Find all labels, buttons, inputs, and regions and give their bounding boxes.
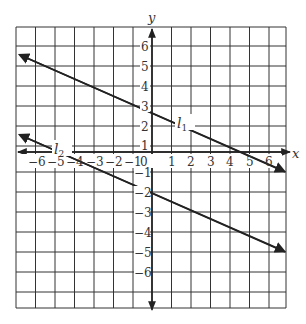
svg-text:−1: −1 xyxy=(134,166,152,180)
coordinate-plane: y x 0 −6 −5 −4 −3 −2 −1 1 2 3 4 5 6 6 5 … xyxy=(0,0,306,324)
x-axis-label: x xyxy=(292,146,300,161)
svg-text:1: 1 xyxy=(168,155,176,169)
svg-text:4: 4 xyxy=(141,80,149,94)
y-axis-label: y xyxy=(147,10,156,25)
svg-text:5: 5 xyxy=(141,60,149,74)
svg-text:6: 6 xyxy=(141,40,149,54)
svg-text:6: 6 xyxy=(265,155,273,169)
svg-text:−5: −5 xyxy=(134,246,152,260)
svg-text:5: 5 xyxy=(246,155,254,169)
svg-text:−6: −6 xyxy=(134,266,152,280)
svg-text:3: 3 xyxy=(207,155,215,169)
svg-text:−4: −4 xyxy=(134,226,152,240)
svg-text:−4: −4 xyxy=(66,155,84,169)
svg-text:−2: −2 xyxy=(134,186,152,200)
svg-text:4: 4 xyxy=(226,155,234,169)
svg-text:−3: −3 xyxy=(86,155,104,169)
svg-text:2: 2 xyxy=(187,155,195,169)
svg-text:−3: −3 xyxy=(134,206,152,220)
svg-text:1: 1 xyxy=(141,139,149,153)
svg-text:−6: −6 xyxy=(28,155,46,169)
svg-text:2: 2 xyxy=(141,120,149,134)
svg-text:−2: −2 xyxy=(105,155,123,169)
svg-text:3: 3 xyxy=(141,100,149,114)
